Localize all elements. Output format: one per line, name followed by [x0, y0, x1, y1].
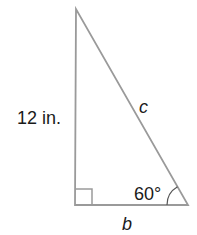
- base-label: b: [122, 214, 132, 234]
- hypotenuse-label: c: [139, 97, 148, 117]
- triangle-diagram: 12 in. c 60° b: [0, 0, 197, 235]
- vertical-side-label: 12 in.: [17, 108, 61, 128]
- angle-label: 60°: [134, 184, 161, 204]
- triangle-outline: [75, 9, 188, 205]
- angle-arc-60: [167, 187, 178, 205]
- right-angle-marker: [75, 189, 92, 205]
